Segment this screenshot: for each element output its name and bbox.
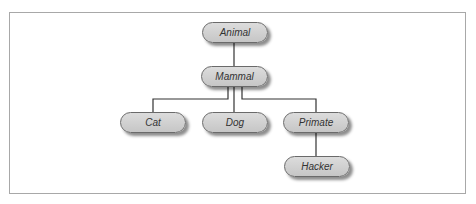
node-hacker: Hacker bbox=[284, 156, 350, 177]
node-label: Primate bbox=[299, 117, 333, 128]
node-cat: Cat bbox=[120, 112, 186, 133]
node-mammal: Mammal bbox=[201, 66, 268, 87]
node-primate: Primate bbox=[283, 112, 349, 133]
node-label: Dog bbox=[226, 117, 244, 128]
node-label: Cat bbox=[145, 117, 161, 128]
edge-mammal-primate bbox=[242, 87, 316, 112]
node-animal: Animal bbox=[202, 22, 268, 43]
node-label: Animal bbox=[220, 27, 251, 38]
node-label: Mammal bbox=[215, 71, 253, 82]
node-dog: Dog bbox=[202, 112, 268, 133]
edge-mammal-cat bbox=[153, 87, 228, 112]
node-label: Hacker bbox=[301, 161, 333, 172]
